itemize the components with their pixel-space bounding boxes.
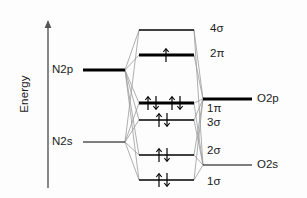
energy-axis-label: Energy xyxy=(18,59,30,129)
mo-label-1pi: 1π xyxy=(207,103,221,115)
energy-axis-arrow-icon xyxy=(45,20,52,28)
ao-label-o2s: O2s xyxy=(257,159,278,171)
mo-label-4sigma: 4σ xyxy=(210,23,224,35)
ao-label-n2p: N2p xyxy=(52,64,73,76)
correlation-lines-group xyxy=(125,30,203,180)
ao-label-o2p: O2p xyxy=(257,93,279,105)
mo-label-2pi: 2π xyxy=(210,48,224,60)
mo-label-2sigma: 2σ xyxy=(207,145,221,157)
mo-label-1sigma: 1σ xyxy=(207,176,221,188)
ao-label-n2s: N2s xyxy=(52,136,72,148)
mo-diagram: Energy N2p N2s O2p O2s 4σ 2π 1π 3σ 2σ 1σ xyxy=(0,0,307,198)
mo-label-3sigma: 3σ xyxy=(207,117,221,129)
